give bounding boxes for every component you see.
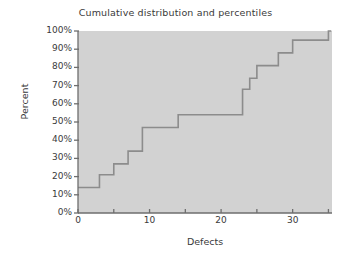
cumulative-distribution-chart: Cumulative distribution and percentiles … — [0, 0, 351, 256]
plot-background — [78, 31, 332, 213]
plot-area — [0, 0, 351, 256]
